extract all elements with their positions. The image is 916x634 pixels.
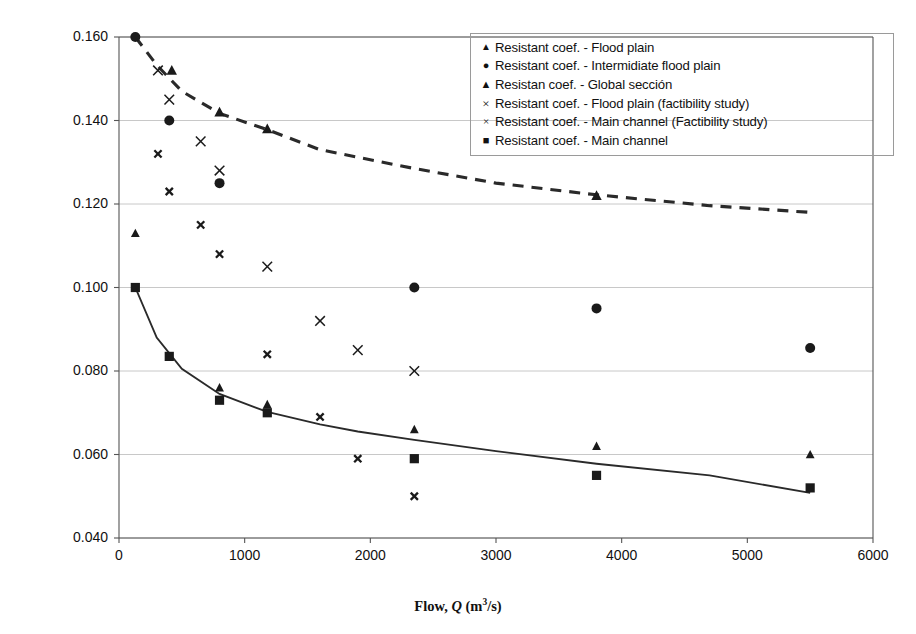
x-tick-label: 6000 — [843, 547, 903, 563]
legend-marker-icon: ▲ — [477, 38, 495, 57]
data-point-series1-0 — [130, 32, 140, 42]
y-tick-label: 0.080 — [50, 362, 108, 378]
data-point-series1-2 — [215, 178, 225, 188]
y-tick-label: 0.100 — [50, 279, 108, 295]
data-point-series3-1 — [164, 95, 174, 105]
data-point-series4-3 — [216, 251, 223, 258]
data-point-series0-3 — [263, 400, 272, 408]
data-point-series3-3 — [215, 166, 225, 176]
data-point-series4-7 — [411, 493, 418, 500]
data-point-series5-2 — [215, 396, 224, 405]
legend-marker-icon: × — [477, 94, 495, 113]
legend-label: Resistant coef. - Main channel (Factibil… — [495, 114, 767, 129]
x-axis-unit-suffix: /s) — [487, 598, 502, 614]
data-point-series5-1 — [165, 352, 174, 361]
x-axis-unit-prefix: (m — [462, 598, 483, 614]
data-point-series4-5 — [316, 413, 323, 420]
legend-marker-icon: ■ — [477, 131, 495, 150]
data-point-series0-0 — [131, 229, 140, 237]
data-point-series1-4 — [592, 303, 602, 313]
data-point-series0-5 — [592, 442, 601, 450]
data-point-series0-4 — [410, 425, 419, 433]
legend-label: Resistant coef. - Flood plain — [495, 40, 654, 55]
x-axis-title-prefix: Flow, — [414, 598, 451, 614]
data-point-series2-0 — [167, 65, 177, 75]
data-point-series1-5 — [805, 343, 815, 353]
data-point-series3-2 — [196, 137, 206, 147]
legend-label: Resistant coef. - Flood plain (factibili… — [495, 96, 749, 111]
data-point-series0-2 — [215, 383, 224, 391]
legend-entry: ■Resistant coef. - Main channel — [477, 131, 887, 150]
data-point-series5-6 — [806, 483, 815, 492]
chart-figure: Mannig resistant coefficient (s /m1/3) 0… — [0, 0, 916, 634]
legend-entry: ×Resistant coef. - Main channel (Factibi… — [477, 112, 887, 131]
y-tick-label: 0.160 — [50, 28, 108, 44]
legend-entry: ●Resistant coef. - Intermidiate flood pl… — [477, 57, 887, 76]
data-point-series4-1 — [166, 188, 173, 195]
legend-entry: ×Resistant coef. - Flood plain (factibil… — [477, 94, 887, 113]
data-point-series5-4 — [410, 454, 419, 463]
x-axis-variable: Q — [451, 598, 461, 614]
x-tick-label: 2000 — [340, 547, 400, 563]
data-point-series4-6 — [354, 455, 361, 462]
chart-legend: ▲Resistant coef. - Flood plain●Resistant… — [470, 33, 894, 156]
x-tick-label: 4000 — [592, 547, 652, 563]
data-point-series2-1 — [214, 107, 224, 117]
data-point-series3-6 — [353, 345, 363, 355]
data-point-series1-3 — [409, 283, 419, 293]
y-tick-label: 0.060 — [50, 446, 108, 462]
x-axis-title: Flow, Q (m3/s) — [0, 597, 916, 615]
legend-entry: ▲Resistant coef. - Flood plain — [477, 38, 887, 57]
data-point-series5-5 — [592, 471, 601, 480]
x-tick-label: 5000 — [717, 547, 777, 563]
data-point-series4-2 — [197, 221, 204, 228]
x-tick-label: 1000 — [215, 547, 275, 563]
data-point-series4-4 — [264, 351, 271, 358]
legend-label: Resistant coef. - Main channel — [495, 133, 668, 148]
data-point-series1-1 — [164, 116, 174, 126]
data-point-series3-5 — [315, 316, 325, 326]
legend-label: Resistant coef. - Intermidiate flood pla… — [495, 58, 720, 73]
trend-line-solid — [135, 288, 810, 493]
legend-entry: ▲Resistan coef. - Global sección — [477, 75, 887, 94]
y-tick-label: 0.120 — [50, 195, 108, 211]
legend-marker-icon: ● — [477, 57, 495, 76]
data-point-series4-0 — [154, 150, 161, 157]
x-tick-label: 0 — [89, 547, 149, 563]
data-point-series5-0 — [131, 283, 140, 292]
y-tick-label: 0.140 — [50, 112, 108, 128]
legend-marker-icon: × — [477, 112, 495, 131]
data-point-series5-3 — [263, 408, 272, 417]
legend-label: Resistan coef. - Global sección — [495, 77, 672, 92]
y-tick-label: 0.040 — [50, 529, 108, 545]
legend-marker-icon: ▲ — [477, 75, 495, 94]
x-tick-label: 3000 — [466, 547, 526, 563]
data-point-series3-4 — [262, 262, 272, 272]
